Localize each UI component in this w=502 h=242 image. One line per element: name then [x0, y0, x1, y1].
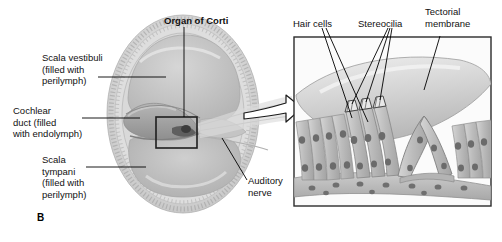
- cochlea-organ-of-corti-figure: Organ of Corti Scala vestibuli (filled w…: [0, 0, 502, 242]
- scala-tympani-label: Scala tympani (filled with perilymph): [42, 154, 86, 200]
- tectorial-membrane-label: Tectorial membrane: [425, 6, 470, 29]
- stereocilia-label: Stereocilia: [358, 18, 402, 30]
- cochlear-duct-label: Cochlear duct (filled with endolymph): [13, 105, 82, 140]
- supporting-cells-right: [452, 120, 492, 178]
- scala-vestibuli-label: Scala vestibuli (filled with perilymph): [42, 52, 103, 87]
- supporting-cells-left: [296, 114, 354, 180]
- organ-of-corti-inset: [294, 37, 492, 206]
- panel-letter-b: B: [37, 212, 44, 223]
- organ-of-corti-label: Organ of Corti: [164, 15, 228, 27]
- organ-of-corti-core: [181, 125, 191, 133]
- auditory-nerve-label: Auditory nerve: [248, 175, 283, 198]
- hair-cells-label: Hair cells: [293, 18, 332, 30]
